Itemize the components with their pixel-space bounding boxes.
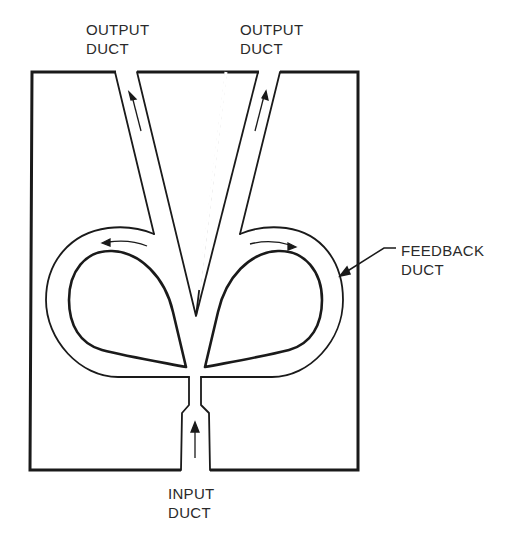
output-v-junction <box>137 72 226 316</box>
label-line: INPUT <box>168 484 215 503</box>
label-line: DUCT <box>401 260 484 279</box>
feedback-leader <box>340 248 396 276</box>
label-line: OUTPUT <box>240 20 303 39</box>
label-feedback-duct: FEEDBACK DUCT <box>401 241 484 279</box>
right-feedback-arrow-icon <box>250 242 296 250</box>
left-feedback-arrow-icon <box>102 239 147 246</box>
right-output-duct <box>240 72 280 234</box>
left-output-duct <box>115 72 154 234</box>
label-output-duct-right: OUTPUT DUCT <box>240 20 303 58</box>
input-arrow-icon <box>191 422 199 458</box>
label-output-duct-left: OUTPUT DUCT <box>86 20 149 58</box>
label-line: OUTPUT <box>86 20 149 39</box>
label-input-duct: INPUT DUCT <box>168 484 215 522</box>
left-feedback-duct-inner <box>69 251 186 367</box>
label-line: DUCT <box>168 503 215 522</box>
label-line: FEEDBACK <box>401 241 484 260</box>
left-output-arrow-icon <box>129 92 141 131</box>
device-frame <box>30 72 358 470</box>
right-feedback-duct-inner <box>205 251 322 367</box>
label-line: DUCT <box>86 39 149 58</box>
label-line: DUCT <box>240 39 303 58</box>
